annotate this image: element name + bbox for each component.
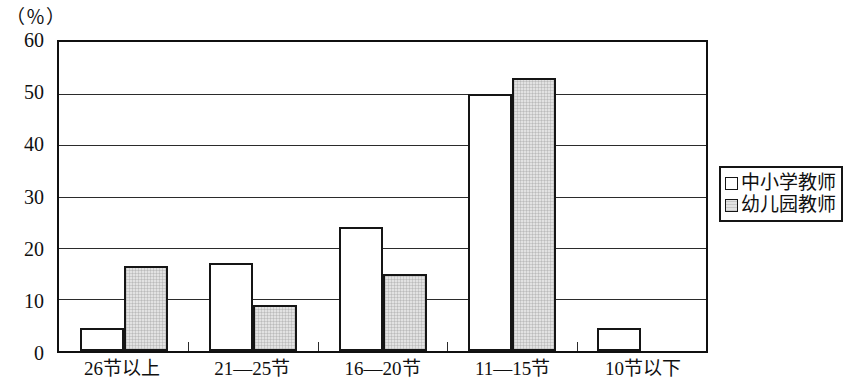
legend-label-series-b: 幼儿园教师 (741, 194, 836, 216)
y-axis-tick-labels: 60 50 40 30 20 10 0 (0, 40, 50, 353)
bar-group (447, 42, 576, 351)
bar-group (577, 42, 706, 351)
bar-group (188, 42, 317, 351)
y-tick-60: 60 (0, 29, 44, 52)
x-tick-2 (318, 342, 319, 351)
bar-series-a (80, 328, 124, 351)
y-tick-0: 0 (0, 342, 44, 365)
bar-series-a (597, 328, 641, 351)
y-tick-50: 50 (0, 81, 44, 104)
legend-item-series-b: 幼儿园教师 (725, 194, 836, 216)
x-tick-1 (188, 342, 189, 351)
chart-legend: 中小学教师 幼儿园教师 (719, 166, 843, 222)
bar-chart-figure: （％） 60 50 40 30 20 10 0 26节以上21—25节16—20… (0, 0, 859, 385)
y-tick-40: 40 (0, 133, 44, 156)
bar-series-a (468, 94, 512, 352)
x-axis-label: 26节以上 (57, 356, 187, 385)
bar-series-b (383, 274, 427, 351)
x-axis-label: 16—20节 (317, 356, 447, 385)
bar-series-b (512, 78, 556, 351)
bar-groups (59, 42, 706, 351)
legend-item-series-a: 中小学教师 (725, 172, 836, 194)
legend-label-series-a: 中小学教师 (741, 172, 836, 194)
y-tick-20: 20 (0, 237, 44, 260)
y-tick-10: 10 (0, 289, 44, 312)
x-tick-3 (447, 342, 448, 351)
legend-swatch-gray-square-icon (725, 199, 738, 212)
y-tick-30: 30 (0, 185, 44, 208)
bar-series-b (253, 305, 297, 351)
x-axis-label: 21—25节 (187, 356, 317, 385)
legend-swatch-white-square-icon (725, 177, 738, 190)
bar-series-b (124, 266, 168, 351)
bar-series-a (209, 263, 253, 351)
x-tick-4 (577, 342, 578, 351)
x-axis-category-labels: 26节以上21—25节16—20节11—15节10节以下 (57, 356, 708, 385)
bar-group (318, 42, 447, 351)
x-axis-label: 10节以下 (578, 356, 708, 385)
x-axis-label: 11—15节 (448, 356, 578, 385)
plot-area (57, 40, 708, 353)
bar-series-a (339, 227, 383, 351)
bar-group (59, 42, 188, 351)
y-axis-unit-label: （％） (6, 2, 66, 29)
